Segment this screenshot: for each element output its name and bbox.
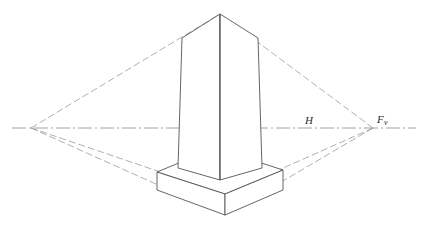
perspective-figure: H F v	[0, 0, 426, 240]
drawing-canvas: H F v	[0, 0, 426, 240]
horizon-label: H	[304, 114, 314, 126]
vanishing-point-label: F	[376, 113, 384, 125]
tower-right-face	[220, 14, 262, 180]
tower-left-face	[178, 14, 220, 180]
vanishing-point-label-subscript: v	[384, 118, 388, 127]
tower-shaft	[178, 14, 262, 180]
